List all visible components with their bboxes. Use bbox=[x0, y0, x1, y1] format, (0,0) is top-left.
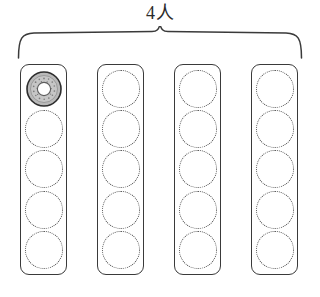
dotted-circle-icon bbox=[25, 150, 63, 188]
slot-2-5[interactable] bbox=[102, 231, 140, 269]
column-4[interactable] bbox=[251, 64, 298, 275]
slot-1-3[interactable] bbox=[25, 150, 63, 188]
dotted-circle-icon bbox=[25, 231, 63, 269]
dotted-circle-icon bbox=[256, 110, 294, 148]
slot-3-3[interactable] bbox=[179, 150, 217, 188]
dotted-circle-icon bbox=[102, 231, 140, 269]
dotted-circle-icon bbox=[179, 191, 217, 229]
dotted-circle-icon bbox=[256, 70, 294, 108]
dotted-circle-icon bbox=[102, 70, 140, 108]
donut-icon bbox=[25, 70, 63, 108]
slot-2-4[interactable] bbox=[102, 191, 140, 229]
slot-4-2[interactable] bbox=[256, 110, 294, 148]
column-2[interactable] bbox=[97, 64, 144, 275]
slot-1-1[interactable] bbox=[25, 70, 63, 108]
slot-2-3[interactable] bbox=[102, 150, 140, 188]
dotted-circle-icon bbox=[256, 150, 294, 188]
column-3[interactable] bbox=[174, 64, 221, 275]
slot-4-5[interactable] bbox=[256, 231, 294, 269]
slot-2-2[interactable] bbox=[102, 110, 140, 148]
dotted-circle-icon bbox=[179, 150, 217, 188]
slot-1-4[interactable] bbox=[25, 191, 63, 229]
diagram-canvas: 4人 bbox=[0, 0, 320, 297]
slot-4-1[interactable] bbox=[256, 70, 294, 108]
dotted-circle-icon bbox=[102, 110, 140, 148]
dotted-circle-icon bbox=[179, 231, 217, 269]
slot-3-2[interactable] bbox=[179, 110, 217, 148]
dotted-circle-icon bbox=[179, 70, 217, 108]
dotted-circle-icon bbox=[256, 191, 294, 229]
dotted-circle-icon bbox=[102, 150, 140, 188]
slot-1-5[interactable] bbox=[25, 231, 63, 269]
dotted-circle-icon bbox=[256, 231, 294, 269]
slot-3-5[interactable] bbox=[179, 231, 217, 269]
dotted-circle-icon bbox=[25, 110, 63, 148]
slot-4-3[interactable] bbox=[256, 150, 294, 188]
dotted-circle-icon bbox=[179, 110, 217, 148]
slot-4-4[interactable] bbox=[256, 191, 294, 229]
slot-3-1[interactable] bbox=[179, 70, 217, 108]
slot-2-1[interactable] bbox=[102, 70, 140, 108]
slot-1-2[interactable] bbox=[25, 110, 63, 148]
column-group bbox=[0, 0, 320, 297]
dotted-circle-icon bbox=[102, 191, 140, 229]
dotted-circle-icon bbox=[25, 191, 63, 229]
slot-3-4[interactable] bbox=[179, 191, 217, 229]
column-1[interactable] bbox=[20, 64, 67, 275]
